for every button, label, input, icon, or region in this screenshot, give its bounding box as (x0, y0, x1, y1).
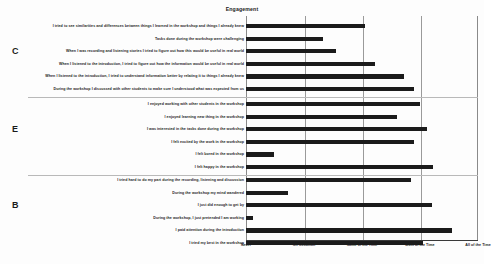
section-letter-e: E (12, 124, 18, 134)
chart-row: When I listened to the introduction, I t… (0, 58, 484, 70)
section-letter-b: B (12, 200, 19, 210)
section-letter-c: C (12, 46, 19, 56)
chart-row: When I listened to the introduction, I t… (0, 70, 484, 82)
bar-category-label: I just did enough to get by (198, 199, 244, 211)
bar-category-label: I enjoyed learning new thing in the work… (164, 111, 244, 123)
x-tick-label: On Occasion (293, 243, 316, 247)
bar (246, 74, 404, 78)
chart-row: I felt bored in the workshop (0, 148, 484, 160)
bar-category-label: When I was recording and listening stori… (66, 45, 244, 57)
bar-category-label: I felt happy in the workshop (195, 161, 244, 173)
chart-row: During the workshop my mind wandered (0, 187, 484, 199)
bar (246, 102, 420, 106)
bar-category-label: I felt excited by the work in the worksh… (171, 136, 244, 148)
chart-row: Tasks done during the workshop were chal… (0, 33, 484, 45)
bar (246, 140, 414, 144)
bar-category-label: During the workshop I discussed with oth… (54, 83, 245, 95)
bar (246, 216, 253, 220)
bar-category-label: During the workshop my mind wandered (172, 187, 244, 199)
bar (246, 24, 365, 28)
x-tick-label: All of the Time (465, 243, 490, 247)
chart-row: I was interested in the tasks done durin… (0, 123, 484, 135)
chart-row: I tried hard to do my part during the re… (0, 174, 484, 186)
chart-row: I felt happy in the workshop (0, 161, 484, 173)
bar (246, 152, 274, 156)
bar-category-label: When I listened to the introduction, I t… (59, 58, 244, 70)
bar (246, 165, 433, 169)
x-tick-label: Never (241, 243, 251, 247)
section-divider (28, 175, 478, 176)
chart-row: I paid attention during the introduction (0, 224, 484, 236)
bar-category-label: When I listened to the introduction, I t… (45, 70, 244, 82)
bar (246, 228, 452, 232)
chart-title: Engagement (0, 6, 484, 12)
bar (246, 203, 432, 207)
bar (246, 191, 288, 195)
bar-category-label: I enjoyed working with other students in… (148, 98, 244, 110)
chart-row: During the workshop, I just pretended I … (0, 212, 484, 224)
bar-category-label: I tried hard to do my part during the re… (117, 174, 244, 186)
chart-row: I tried to see similarities and differen… (0, 20, 484, 32)
bar (246, 127, 427, 131)
bar (246, 241, 423, 245)
chart-row: When I was recording and listening stori… (0, 45, 484, 57)
chart-row: I enjoyed learning new thing in the work… (0, 111, 484, 123)
bar-category-label: I paid attention during the introduction (176, 224, 244, 236)
bar-category-label: I was interested in the tasks done durin… (147, 123, 244, 135)
chart-row: I just did enough to get by (0, 199, 484, 211)
section-divider (28, 97, 478, 98)
bar (246, 87, 414, 91)
chart-row: I enjoyed working with other students in… (0, 98, 484, 110)
bar (246, 62, 375, 66)
bar (246, 115, 397, 119)
x-tick-label: Most of the Time (405, 243, 434, 247)
bar (246, 49, 336, 53)
bar-category-label: Tasks done during the workshop were chal… (155, 33, 244, 45)
bar-category-label: I tried to see similarities and differen… (53, 20, 244, 32)
chart-row: I felt excited by the work in the worksh… (0, 136, 484, 148)
bar-category-label: I felt bored in the workshop (195, 148, 244, 160)
x-tick-label: Some of the Time (347, 243, 378, 247)
bar (246, 178, 411, 182)
bar-category-label: During the workshop, I just pretended I … (153, 212, 244, 224)
bar (246, 37, 323, 41)
chart-row: During the workshop I discussed with oth… (0, 83, 484, 95)
bar-category-label: I tried my best in the workshop (189, 237, 244, 249)
